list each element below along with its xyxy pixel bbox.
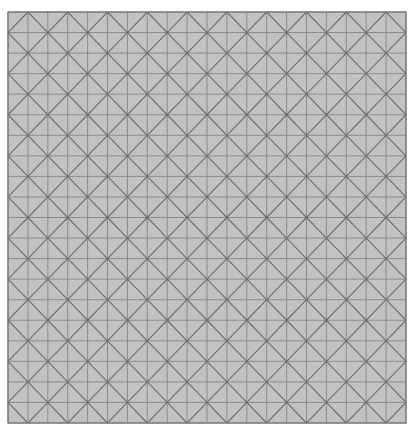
puzzle-board[interactable] (0, 0, 416, 429)
